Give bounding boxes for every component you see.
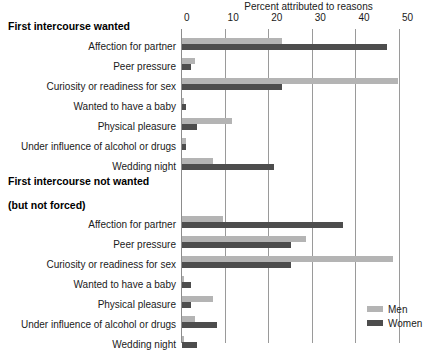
xtick-30: 30 [315, 12, 326, 23]
axis-title-percent: Percent attributed to reasons [181, 1, 436, 12]
cat-label-p1-wedding: Wedding night [3, 161, 179, 172]
cat-label-p1-influence: Under influence of alcohol or drugs [3, 141, 179, 152]
cat-label-p1-baby: Wanted to have a baby [3, 101, 179, 112]
bar-panel2-women-3 [182, 282, 191, 288]
bar-panel2-women-1 [182, 242, 291, 248]
bar-panel1-women-4 [182, 124, 197, 130]
xtick-40: 40 [358, 12, 369, 23]
category-labels-column: Affection for partner Peer pressure Curi… [0, 0, 179, 357]
bar-panel2-women-6 [182, 342, 197, 348]
bar-panel1-women-2 [182, 84, 282, 90]
legend-item-women: Women [367, 316, 422, 330]
xtick-20: 20 [271, 12, 282, 23]
plot-area: 0 10 20 30 40 50 [181, 29, 399, 343]
legend-label-men: Men [388, 304, 407, 315]
cat-label-p1-pleasure: Physical pleasure [3, 121, 179, 132]
legend-swatch-women-icon [367, 320, 383, 326]
legend-item-men: Men [367, 302, 422, 316]
bar-panel1-women-6 [182, 164, 274, 170]
gridline-40 [355, 29, 356, 343]
bar-panel1-women-3 [182, 104, 186, 110]
cat-label-p2-influence: Under influence of alcohol or drugs [3, 319, 179, 330]
bar-panel2-women-2 [182, 262, 291, 268]
legend-swatch-men-icon [367, 306, 383, 312]
bar-panel2-women-4 [182, 302, 191, 308]
cat-label-p2-pleasure: Physical pleasure [3, 299, 179, 310]
cat-label-p2-wedding: Wedding night [3, 339, 179, 350]
xtick-50: 50 [402, 12, 413, 23]
gridline-10 [225, 29, 226, 343]
cat-label-p1-peer: Peer pressure [3, 61, 179, 72]
bar-panel2-women-0 [182, 222, 343, 228]
cat-label-p2-peer: Peer pressure [3, 239, 179, 250]
chart-root: Percent attributed to reasons First inte… [0, 0, 436, 357]
cat-label-p1-affection: Affection for partner [3, 41, 179, 52]
cat-label-p2-baby: Wanted to have a baby [3, 279, 179, 290]
bar-panel1-women-5 [182, 144, 186, 150]
cat-label-p2-curiosity: Curiosity or readiness for sex [3, 259, 179, 270]
legend-label-women: Women [388, 318, 422, 329]
gridline-30 [312, 29, 313, 343]
xtick-0: 0 [184, 12, 190, 23]
bar-panel1-women-1 [182, 64, 191, 70]
gridline-50 [399, 29, 400, 343]
gridline-20 [268, 29, 269, 343]
cat-label-p1-curiosity: Curiosity or readiness for sex [3, 81, 179, 92]
bar-panel1-women-0 [182, 44, 387, 50]
xtick-10: 10 [228, 12, 239, 23]
legend: Men Women [367, 302, 422, 330]
bar-panel2-women-5 [182, 322, 217, 328]
cat-label-p2-affection: Affection for partner [3, 219, 179, 230]
